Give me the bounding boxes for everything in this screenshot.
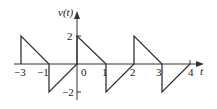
y-tick-label-2: 2: [67, 30, 73, 42]
y-axis-arrow-icon: [74, 11, 80, 19]
x-tick-label-neg1: −1: [37, 66, 49, 78]
y-tick-label-neg2: −2: [62, 86, 74, 98]
x-tick-label-4: 4: [188, 66, 194, 78]
x-tick-label-neg3: −3: [14, 66, 26, 78]
x-axis-label: t: [200, 65, 204, 77]
x-tick-label-3: 3: [156, 66, 162, 78]
waveform-chart: v(t) t 2 −2 −3 −1 0 1 2 3 4: [0, 0, 217, 109]
y-axis-label: v(t): [58, 6, 74, 19]
x-tick-label-0: 0: [81, 66, 87, 78]
x-tick-label-2: 2: [130, 66, 136, 78]
x-tick-label-1: 1: [102, 66, 108, 78]
